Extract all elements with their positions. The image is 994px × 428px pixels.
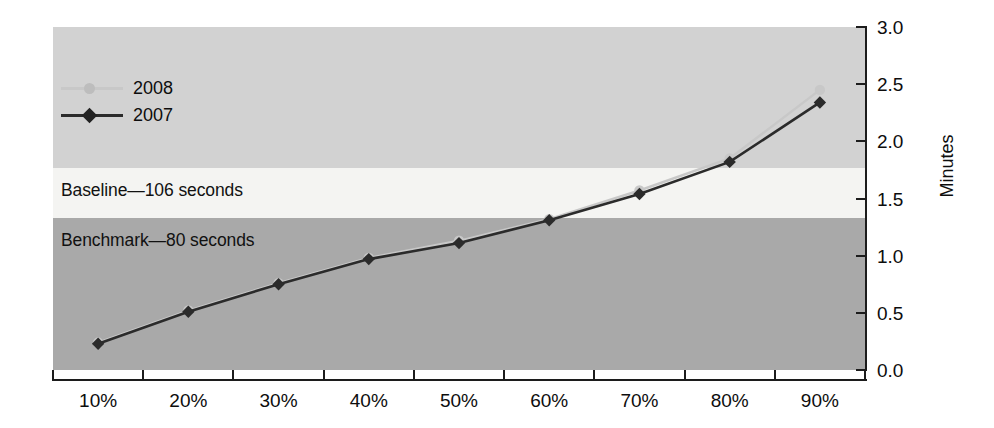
y-tick-mark: [856, 198, 867, 200]
x-tick-label: 70%: [620, 391, 658, 410]
y-tick-mark: [856, 312, 867, 314]
series-layer: [53, 27, 865, 370]
x-tick-mark: [52, 370, 54, 381]
data-point-diamond: [543, 214, 555, 226]
x-axis-line: [53, 379, 867, 381]
x-tick-label: 90%: [801, 391, 839, 410]
series-line-2008: [98, 90, 820, 343]
legend-item-2008[interactable]: 2008: [61, 78, 173, 98]
y-tick-mark: [856, 83, 867, 85]
legend-label-2007: 2007: [133, 106, 173, 124]
data-point-diamond: [272, 278, 284, 290]
diamond-marker-icon: [82, 107, 98, 123]
y-tick-mark: [856, 140, 867, 142]
x-tick-label: 50%: [440, 391, 478, 410]
plot-area: Baseline—106 seconds Benchmark—80 second…: [53, 27, 865, 370]
x-tick-label: 60%: [530, 391, 568, 410]
y-tick-label: 2.5: [877, 75, 903, 94]
y-tick-label: 1.0: [877, 247, 903, 266]
data-point-diamond: [363, 253, 375, 265]
circle-marker-icon: [84, 83, 95, 94]
x-tick-label: 10%: [79, 391, 117, 410]
y-tick-label: 3.0: [877, 18, 903, 37]
x-tick-label: 80%: [711, 391, 749, 410]
x-tick-mark: [323, 370, 325, 381]
line-chart: Baseline—106 seconds Benchmark—80 second…: [0, 0, 994, 428]
y-tick-mark: [856, 26, 867, 28]
legend-swatch-2007: [61, 106, 123, 124]
legend-item-2007[interactable]: 2007: [61, 105, 173, 125]
y-tick-label: 1.5: [877, 190, 903, 209]
legend-swatch-2008: [61, 79, 123, 97]
x-tick-mark: [864, 370, 866, 381]
x-tick-mark: [413, 370, 415, 381]
data-point-circle: [815, 85, 825, 95]
x-tick-mark: [593, 370, 595, 381]
x-tick-mark: [684, 370, 686, 381]
x-tick-mark: [232, 370, 234, 381]
y-tick-mark: [856, 255, 867, 257]
x-tick-label: 20%: [169, 391, 207, 410]
x-tick-mark: [503, 370, 505, 381]
y-axis-title: Minutes: [938, 134, 956, 197]
x-tick-mark: [774, 370, 776, 381]
x-tick-mark: [142, 370, 144, 381]
x-tick-label: 40%: [350, 391, 388, 410]
y-tick-label: 2.0: [877, 132, 903, 151]
legend-label-2008: 2008: [133, 79, 173, 97]
data-point-diamond: [182, 305, 194, 317]
y-tick-label: 0.5: [877, 304, 903, 323]
y-tick-label: 0.0: [877, 361, 903, 380]
series-line-2007: [98, 102, 820, 343]
legend: 2008 2007: [61, 78, 173, 125]
data-point-diamond: [92, 338, 104, 350]
x-tick-label: 30%: [260, 391, 298, 410]
